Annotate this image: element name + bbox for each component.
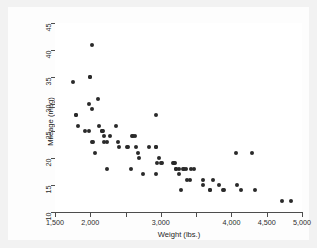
y-tick-label-text: 25 — [44, 132, 53, 140]
data-point — [87, 129, 91, 133]
scatter-plot-figure: Mileage (mpg) Weight (lbs.) 101520253035… — [0, 0, 317, 248]
y-tick-label-text: 30 — [44, 105, 53, 113]
graph-region: Mileage (mpg) Weight (lbs.) 101520253035… — [8, 7, 309, 240]
data-point — [201, 178, 205, 182]
x-tick-mark — [161, 213, 162, 217]
x-tick-label-text: 1,500 — [46, 218, 64, 227]
data-point — [126, 145, 130, 149]
data-point — [211, 178, 215, 182]
data-point — [184, 167, 188, 171]
x-tick-label-text: 3,000 — [152, 218, 170, 227]
x-tick-mark — [231, 213, 232, 217]
data-point — [250, 151, 254, 155]
data-point — [76, 124, 80, 128]
x-tick-mark — [126, 213, 127, 217]
x-tick-mark — [90, 213, 91, 217]
y-tick-label-text: 20 — [44, 159, 53, 167]
data-point — [90, 43, 94, 47]
data-point — [93, 151, 97, 155]
y-tick-label-text: 40 — [44, 51, 53, 59]
data-point — [154, 113, 158, 117]
data-point — [87, 102, 91, 106]
y-tick-label-text: 45 — [44, 24, 53, 32]
x-tick-label-text: 5,000 — [293, 218, 311, 227]
data-point — [96, 97, 100, 101]
data-point — [116, 140, 120, 144]
x-tick-label-text: 2,000 — [81, 218, 99, 227]
x-tick-mark — [267, 213, 268, 217]
x-axis-title: Weight (lbs.) — [55, 230, 303, 239]
x-tick-mark — [196, 213, 197, 217]
data-point — [97, 124, 101, 128]
data-point — [289, 199, 293, 203]
data-point — [74, 113, 78, 117]
data-point — [192, 167, 196, 171]
data-point — [105, 140, 109, 144]
x-tick-label-text: 4,500 — [258, 218, 276, 227]
data-point — [129, 167, 133, 171]
y-tick-label-text: 35 — [44, 78, 53, 86]
data-point — [137, 156, 141, 160]
data-point — [136, 151, 140, 155]
x-tick-mark — [302, 213, 303, 217]
x-tick-mark — [55, 213, 56, 217]
y-tick-label-text: 15 — [44, 186, 53, 194]
data-point — [234, 151, 238, 155]
data-point — [91, 140, 95, 144]
data-point — [177, 167, 181, 171]
x-tick-label-text: 4,000 — [222, 218, 240, 227]
plot-area — [55, 23, 302, 212]
data-point — [101, 129, 105, 133]
